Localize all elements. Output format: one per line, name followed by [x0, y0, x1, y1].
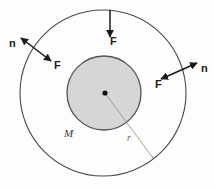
- mass-label: M: [64, 128, 73, 139]
- normal-force-arrow-right: [161, 63, 197, 79]
- center-point: [102, 90, 107, 95]
- force-label-top: F: [110, 36, 117, 47]
- radius-label: r: [127, 133, 131, 143]
- normal-force-arrow-left: [21, 38, 51, 61]
- force-label-right: F: [155, 79, 162, 90]
- physics-diagram-canvas: [0, 0, 214, 189]
- normal-label-right: n: [201, 63, 208, 74]
- normal-label-left: n: [9, 38, 16, 49]
- force-label-left: F: [54, 60, 61, 71]
